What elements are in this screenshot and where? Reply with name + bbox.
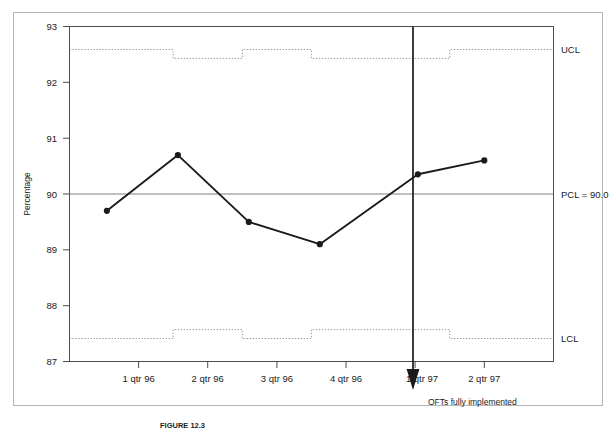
y-tick-label-88: 88 xyxy=(46,300,57,311)
y-tick-label-90: 90 xyxy=(46,189,57,200)
x-tick-label-4qtr96: 4 qtr 96 xyxy=(330,373,362,384)
x-axis-ticks xyxy=(139,362,485,369)
data-point-3qtr96 xyxy=(246,219,252,225)
x-tick-label-3qtr96: 3 qtr 96 xyxy=(261,373,293,384)
figure-container: 93 92 91 90 89 88 87 Percentage 1 qtr 96… xyxy=(0,0,616,432)
figure-outer-border xyxy=(14,13,603,406)
intervention-annotation-label: OFTs fully implemented xyxy=(428,397,517,407)
y-tick-label-91: 91 xyxy=(46,133,57,144)
y-tick-label-87: 87 xyxy=(46,356,57,367)
data-point-1qtr96 xyxy=(104,208,110,214)
spc-control-chart: 93 92 91 90 89 88 87 Percentage 1 qtr 96… xyxy=(0,0,616,432)
data-point-1qtr97 xyxy=(415,171,421,177)
y-tick-label-93: 93 xyxy=(46,21,57,32)
data-point-2qtr97 xyxy=(481,157,487,163)
figure-caption: FIGURE 12.3 xyxy=(160,421,205,430)
y-axis-ticks xyxy=(63,27,70,362)
y-tick-label-89: 89 xyxy=(46,244,57,255)
data-series-line xyxy=(107,155,484,244)
intervention-arrow xyxy=(407,27,420,391)
data-point-markers xyxy=(104,152,488,247)
ucl-label: UCL xyxy=(561,44,580,55)
data-point-2qtr96 xyxy=(175,152,181,158)
y-tick-label-92: 92 xyxy=(46,77,57,88)
data-point-4qtr96 xyxy=(317,241,323,247)
lcl-label: LCL xyxy=(561,333,578,344)
lower-control-limit-line xyxy=(70,330,554,339)
x-tick-label-2qtr97: 2 qtr 97 xyxy=(468,373,500,384)
x-tick-label-2qtr96: 2 qtr 96 xyxy=(192,373,224,384)
pcl-label: PCL = 90.0 xyxy=(561,189,608,200)
upper-control-limit-line xyxy=(70,50,554,59)
y-axis-title: Percentage xyxy=(22,172,32,216)
x-tick-label-1qtr96: 1 qtr 96 xyxy=(122,373,154,384)
